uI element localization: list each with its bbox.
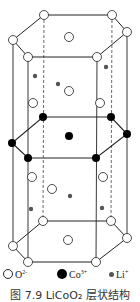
legend-item-lithium: Li+ [109,266,128,282]
filled-circle-icon [57,269,67,279]
oxygen-ions-top [9,11,132,62]
legend-label-cobalt: Co3+ [69,269,87,280]
oxygen-ions-lower [28,173,108,194]
oxygen-ions-bottom [9,217,132,267]
cobalt-ions [8,113,131,162]
figure-caption: 图 7.9 LiCoO₂ 层状结构 [0,286,140,302]
legend-item-oxygen: O2- [3,266,27,282]
legend-label-oxygen: O2- [15,269,27,280]
legend-label-lithium: Li+ [116,269,128,280]
legend: O2- Co3+ Li+ [0,266,140,282]
oxygen-ions-upper [29,87,105,108]
open-circle-icon [3,269,13,279]
lithium-ions-lower [29,194,104,211]
legend-item-cobalt: Co3+ [57,266,87,282]
small-dot-icon [109,272,114,277]
